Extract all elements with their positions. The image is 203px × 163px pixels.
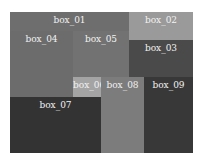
treemap-tile-box-09: box_09 [144,77,193,153]
tile-label: box_04 [10,34,73,44]
tile-label: box_06 [73,80,101,90]
treemap-tile-box-08: box_08 [101,77,144,153]
tile-label: box_07 [10,100,101,110]
treemap-tile-box-04: box_04 [10,31,73,97]
tile-label: box_01 [10,15,129,25]
tile-label: box_08 [101,80,144,90]
tile-label: box_09 [144,80,193,90]
treemap-tile-box-01: box_01 [10,12,129,31]
treemap-tile-box-05: box_05 [73,31,129,77]
treemap-tile-box-07: box_07 [10,97,101,153]
tile-label: box_05 [73,34,129,44]
treemap-tile-box-02: box_02 [129,12,193,40]
treemap-tile-box-06: box_06 [73,77,101,97]
tile-label: box_02 [129,15,193,25]
treemap-tile-box-03: box_03 [129,40,193,77]
tile-label: box_03 [129,43,193,53]
